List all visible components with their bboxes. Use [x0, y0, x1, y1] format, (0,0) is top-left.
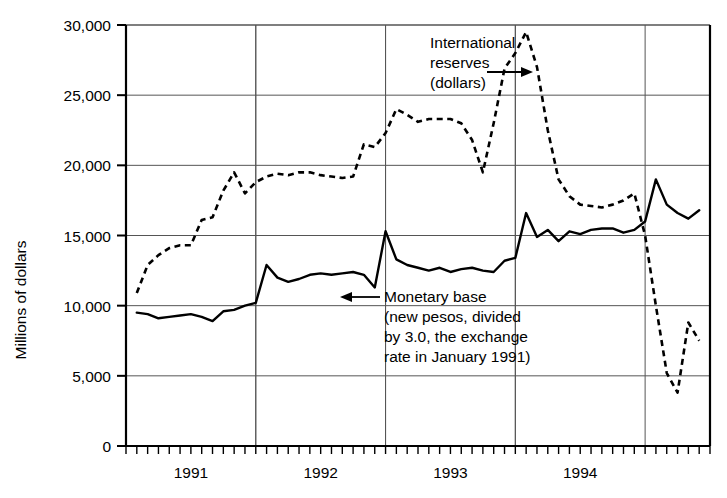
x-tick-label: 1991: [174, 464, 208, 481]
y-tick-label: 30,000: [64, 17, 112, 34]
x-tick-label: 1994: [563, 464, 598, 481]
annotation-reserves-line-2: reserves: [430, 54, 490, 71]
line-chart: 05,00010,00015,00020,00025,00030,000 199…: [0, 0, 727, 498]
x-tick-label: 1992: [303, 464, 337, 481]
y-tick-label: 5,000: [72, 368, 111, 385]
y-tick-label: 15,000: [64, 228, 112, 245]
chart-page: 05,00010,00015,00020,00025,00030,000 199…: [0, 0, 727, 498]
chart-background: [0, 0, 727, 498]
annotation-base-line-3: by 3.0, the exchange: [384, 328, 528, 345]
annotation-base-line-4: rate in January 1991): [384, 348, 530, 365]
annotation-reserves-line-1: International: [430, 34, 515, 51]
annotation-base-line-1: Monetary base: [384, 288, 487, 305]
x-tick-label: 1993: [433, 464, 467, 481]
y-tick-label: 0: [102, 438, 111, 455]
annotation-base-line-2: (new pesos, divided: [384, 308, 521, 325]
y-tick-label: 10,000: [64, 298, 112, 315]
y-tick-label: 25,000: [64, 87, 112, 104]
annotation-reserves-line-3: (dollars): [430, 74, 486, 91]
y-axis-title: Millions of dollars: [12, 240, 29, 359]
y-tick-label: 20,000: [64, 157, 112, 174]
